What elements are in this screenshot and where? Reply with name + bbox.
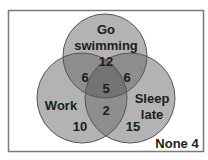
value-sleep-only: 15 — [126, 119, 140, 134]
label-late: late — [141, 107, 163, 122]
value-all-three: 5 — [102, 81, 109, 96]
venn-diagram: Go swimming 12 Work 10 Sleep late 15 6 6… — [0, 0, 208, 160]
label-none: None 4 — [155, 136, 199, 151]
value-swim-sleep: 6 — [123, 70, 130, 85]
value-swim-work: 6 — [81, 70, 88, 85]
value-swim-only: 12 — [99, 54, 113, 69]
label-swimming: swimming — [74, 38, 138, 53]
value-work-only: 10 — [73, 119, 87, 134]
label-work: Work — [45, 98, 78, 113]
label-go: Go — [97, 22, 115, 37]
value-work-sleep: 2 — [102, 103, 109, 118]
label-sleep: Sleep — [135, 91, 170, 106]
